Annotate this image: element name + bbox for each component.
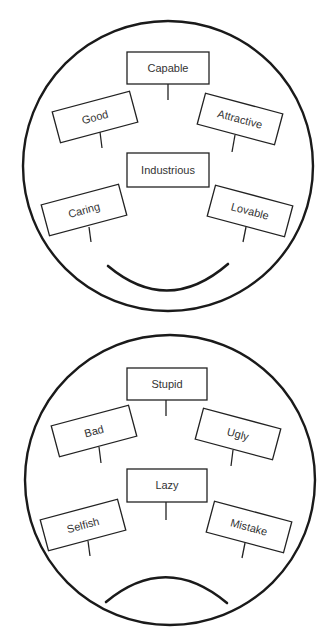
sign-bad: Bad — [51, 405, 137, 457]
labels-faces-diagram: Capable Good Attractive Industrious Cari… — [0, 0, 335, 640]
sign-lazy: Lazy — [127, 469, 207, 520]
sign-label-lazy: Lazy — [155, 479, 179, 491]
sign-stem-mistake — [242, 543, 245, 558]
sign-good: Good — [52, 91, 138, 143]
sign-industrious: Industrious — [127, 153, 209, 187]
sign-attractive: Attractive — [197, 93, 283, 145]
sign-stem-bad — [99, 447, 101, 463]
sign-ugly: Ugly — [195, 408, 281, 460]
smile-mouth — [108, 264, 228, 291]
sign-stem-good — [100, 132, 102, 148]
sign-capable: Capable — [127, 52, 209, 100]
sign-mistake: Mistake — [206, 501, 292, 553]
sign-stem-lovable — [243, 227, 246, 242]
frown-mouth — [106, 577, 227, 603]
sign-caring: Caring — [41, 184, 127, 236]
sad-face: Stupid Bad Ugly Lazy Selfish Mist — [25, 335, 315, 625]
sign-label-capable: Capable — [148, 62, 189, 74]
sign-label-industrious: Industrious — [141, 164, 195, 176]
sign-stem-attractive — [232, 135, 235, 152]
sign-lovable: Lovable — [207, 185, 293, 237]
sign-stem-caring — [89, 227, 91, 242]
happy-face: Capable Good Attractive Industrious Cari… — [23, 21, 313, 311]
sign-stem-ugly — [231, 450, 233, 466]
sign-stem-selfish — [88, 541, 90, 556]
sign-stupid: Stupid — [127, 368, 207, 416]
sign-selfish: Selfish — [40, 499, 126, 551]
sign-label-stupid: Stupid — [151, 378, 182, 390]
